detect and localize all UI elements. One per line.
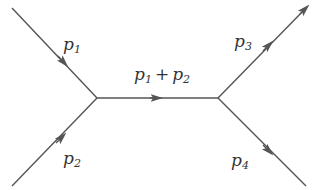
diagram-lines [0, 0, 325, 190]
label-p1: p1 [63, 36, 81, 55]
edge-p3 [218, 8, 306, 98]
label-p4: p4 [231, 152, 249, 171]
arrow-p3-icon [263, 45, 269, 51]
feynman-diagram: p1 p2 p1+p2 p3 p4 [0, 0, 325, 190]
edge-p1 [12, 8, 97, 98]
edge-p2 [12, 98, 97, 186]
edge-p4 [218, 98, 306, 186]
label-p3: p3 [234, 33, 252, 52]
arrow-p3-end-icon [300, 9, 305, 14]
label-p2: p2 [63, 150, 81, 169]
label-p1-plus-p2: p1+p2 [134, 66, 190, 85]
arrow-p1-icon [58, 56, 64, 63]
